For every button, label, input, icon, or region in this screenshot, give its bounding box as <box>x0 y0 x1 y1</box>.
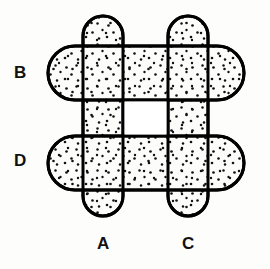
label-a: A <box>97 235 110 252</box>
label-d: D <box>14 152 27 169</box>
center-opening <box>125 102 167 135</box>
bar-d <box>48 136 244 190</box>
bars-diagram <box>0 0 270 269</box>
label-b: B <box>14 64 27 81</box>
bar-b <box>48 46 244 100</box>
label-c: C <box>182 235 195 252</box>
figure-container: B D A C <box>0 0 270 269</box>
